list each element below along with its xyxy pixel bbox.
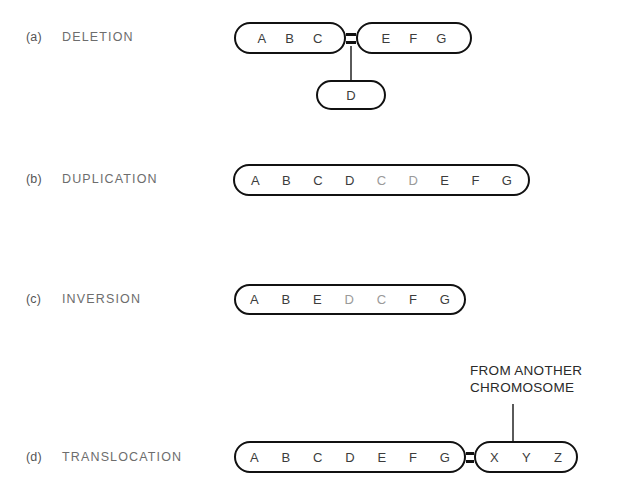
gene-a: A bbox=[258, 32, 267, 45]
gene-b: B bbox=[282, 451, 291, 464]
gene-f: F bbox=[471, 174, 479, 187]
gene-c: C bbox=[313, 174, 322, 187]
row-letter-deletion: (a) bbox=[26, 30, 42, 44]
gene-a: A bbox=[250, 293, 259, 306]
row-label-duplication: DUPLICATION bbox=[62, 172, 158, 186]
row-letter-duplication: (b) bbox=[26, 172, 42, 186]
row-label-translocation: TRANSLOCATION bbox=[62, 450, 182, 464]
gene-x: X bbox=[490, 451, 499, 464]
centromere-bottom-bar bbox=[346, 41, 356, 44]
gene-e: E bbox=[382, 32, 391, 45]
gene-b: B bbox=[285, 32, 294, 45]
gene-d: D bbox=[345, 451, 354, 464]
deletion-leader-line bbox=[350, 46, 352, 80]
gene-b: B bbox=[282, 293, 291, 306]
deleted-fragment-chromosome: D bbox=[316, 80, 386, 110]
gene-c-duplicate: C bbox=[377, 174, 386, 187]
gene-a: A bbox=[251, 174, 260, 187]
gene-a: A bbox=[250, 451, 259, 464]
gene-g: G bbox=[440, 451, 450, 464]
gene-f: F bbox=[409, 293, 417, 306]
gene-y: Y bbox=[522, 451, 531, 464]
chromosome-mutation-figure: (a) DELETION A B C E F G D (b) DUPLICATI… bbox=[0, 0, 628, 492]
gene-f: F bbox=[409, 32, 417, 45]
annotation-leader-line bbox=[512, 404, 514, 442]
gene-g: G bbox=[440, 293, 450, 306]
translocation-foreign-segment: X Y Z bbox=[474, 441, 578, 473]
gene-d: D bbox=[345, 293, 354, 306]
gene-e: E bbox=[378, 451, 387, 464]
duplication-chromosome: A B C D C D E F G bbox=[233, 164, 530, 196]
row-label-inversion: INVERSION bbox=[62, 292, 141, 306]
gene-d: D bbox=[346, 89, 355, 102]
translocation-junction-top-bar bbox=[466, 452, 474, 455]
row-letter-inversion: (c) bbox=[26, 292, 41, 306]
deletion-right-arm-chromosome: E F G bbox=[356, 22, 472, 54]
gene-e: E bbox=[440, 174, 449, 187]
annotation-line-2: CHROMOSOME bbox=[470, 379, 582, 396]
gene-z: Z bbox=[554, 451, 562, 464]
from-another-chromosome-annotation: FROM ANOTHER CHROMOSOME bbox=[470, 362, 582, 396]
gene-e: E bbox=[313, 293, 322, 306]
gene-c: C bbox=[313, 451, 322, 464]
gene-c: C bbox=[377, 293, 386, 306]
gene-d-duplicate: D bbox=[409, 174, 418, 187]
gene-g: G bbox=[502, 174, 512, 187]
translocation-main-chromosome: A B C D E F G bbox=[234, 441, 466, 473]
translocation-junction-bottom-bar bbox=[466, 460, 474, 463]
gene-f: F bbox=[409, 451, 417, 464]
gene-c: C bbox=[313, 32, 322, 45]
gene-g: G bbox=[436, 32, 446, 45]
row-letter-translocation: (d) bbox=[26, 450, 42, 464]
deletion-left-arm-chromosome: A B C bbox=[234, 22, 346, 54]
gene-b: B bbox=[282, 174, 291, 187]
inversion-chromosome: A B E D C F G bbox=[234, 284, 466, 315]
gene-d: D bbox=[345, 174, 354, 187]
centromere-top-bar bbox=[346, 33, 356, 36]
annotation-line-1: FROM ANOTHER bbox=[470, 363, 582, 378]
row-label-deletion: DELETION bbox=[62, 30, 134, 44]
